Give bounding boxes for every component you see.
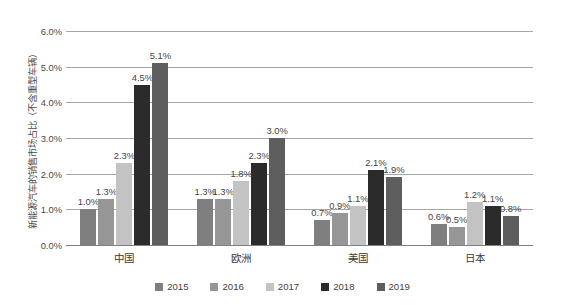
- bar-group: 0.6%0.5%1.2%1.1%0.8%日本: [416, 31, 533, 245]
- bar[interactable]: [431, 224, 447, 245]
- legend-swatch-icon: [266, 283, 274, 291]
- y-axis-tick-labels: 0.0%1.0%2.0%3.0%4.0%5.0%6.0%: [0, 31, 62, 245]
- y-tick-label: 5.0%: [28, 61, 62, 72]
- legend-label: 2016: [222, 281, 243, 292]
- legend-swatch-icon: [155, 283, 163, 291]
- legend-item-2018[interactable]: 2018: [321, 281, 354, 292]
- bar[interactable]: [80, 209, 96, 245]
- bar-value-label: 5.1%: [150, 50, 171, 61]
- bar[interactable]: [368, 170, 384, 245]
- bar[interactable]: [116, 163, 132, 245]
- bar-value-label: 1.0%: [78, 196, 99, 207]
- x-axis-category-label: 美国: [300, 250, 417, 265]
- bar-value-label: 1.1%: [482, 193, 503, 204]
- bar-value-label: 0.5%: [446, 214, 467, 225]
- bar-value-label: 1.8%: [230, 168, 251, 179]
- bar[interactable]: [467, 202, 483, 245]
- legend-swatch-icon: [377, 283, 385, 291]
- bar[interactable]: [197, 199, 213, 245]
- y-tick-label: 3.0%: [28, 133, 62, 144]
- legend-item-2015[interactable]: 2015: [155, 281, 188, 292]
- bar[interactable]: [215, 199, 231, 245]
- bar-group: 0.7%0.9%1.1%2.1%1.9%美国: [300, 31, 417, 245]
- bar-value-label: 1.1%: [347, 193, 368, 204]
- x-axis-category-label: 日本: [416, 250, 533, 265]
- chart-legend: 20152016201720182019: [0, 281, 565, 292]
- plot-area: 1.0%1.3%2.3%4.5%5.1%中国1.3%1.3%1.8%2.3%3.…: [66, 31, 533, 245]
- bar-value-label: 3.0%: [266, 125, 287, 136]
- legend-swatch-icon: [210, 283, 218, 291]
- bar[interactable]: [98, 199, 114, 245]
- y-tick-label: 0.0%: [28, 240, 62, 251]
- bar[interactable]: [269, 138, 285, 245]
- bar-value-label: 2.3%: [114, 150, 135, 161]
- bar-value-label: 4.5%: [132, 72, 153, 83]
- bar-chart: 新能源汽车的销售市场占比（不含重型车辆） 0.0%1.0%2.0%3.0%4.0…: [0, 0, 565, 305]
- bar-group: 1.3%1.3%1.8%2.3%3.0%欧洲: [183, 31, 300, 245]
- y-tick-label: 2.0%: [28, 168, 62, 179]
- bar-value-label: 1.3%: [96, 186, 117, 197]
- bar[interactable]: [350, 206, 366, 245]
- legend-label: 2019: [389, 281, 410, 292]
- legend-item-2017[interactable]: 2017: [266, 281, 299, 292]
- bar[interactable]: [233, 181, 249, 245]
- bar-group: 1.0%1.3%2.3%4.5%5.1%中国: [66, 31, 183, 245]
- bar[interactable]: [332, 213, 348, 245]
- x-axis-category-label: 欧洲: [183, 250, 300, 265]
- gridline: [66, 245, 533, 246]
- bar[interactable]: [152, 63, 168, 245]
- bar[interactable]: [386, 177, 402, 245]
- legend-item-2019[interactable]: 2019: [377, 281, 410, 292]
- legend-swatch-icon: [321, 283, 329, 291]
- y-tick-label: 6.0%: [28, 26, 62, 37]
- bar-value-label: 2.3%: [248, 150, 269, 161]
- bar[interactable]: [449, 227, 465, 245]
- bar-value-label: 1.3%: [212, 186, 233, 197]
- bar[interactable]: [134, 85, 150, 246]
- bar-value-label: 0.8%: [500, 203, 521, 214]
- legend-label: 2018: [333, 281, 354, 292]
- x-axis-category-label: 中国: [66, 250, 183, 265]
- bar[interactable]: [251, 163, 267, 245]
- legend-item-2016[interactable]: 2016: [210, 281, 243, 292]
- bar[interactable]: [485, 206, 501, 245]
- bar[interactable]: [503, 216, 519, 245]
- bar[interactable]: [314, 220, 330, 245]
- legend-label: 2017: [278, 281, 299, 292]
- y-tick-label: 1.0%: [28, 204, 62, 215]
- y-tick-label: 4.0%: [28, 97, 62, 108]
- bar-value-label: 1.9%: [383, 164, 404, 175]
- legend-label: 2015: [167, 281, 188, 292]
